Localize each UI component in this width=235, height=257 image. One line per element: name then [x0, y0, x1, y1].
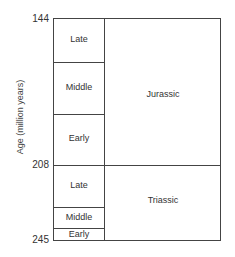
triassic-late-middle-boundary [53, 207, 105, 208]
tick-245: 245 [19, 234, 49, 245]
period-jurassic: Jurassic [105, 89, 221, 99]
tick-208: 208 [19, 159, 49, 170]
epoch-triassic-middle: Middle [54, 212, 104, 222]
tick-144: 144 [19, 13, 49, 24]
y-axis-label: Age (million years) [15, 72, 25, 162]
epoch-jurassic-middle: Middle [54, 82, 104, 92]
epoch-triassic-late: Late [54, 180, 104, 190]
epoch-triassic-early: Early [54, 229, 104, 239]
epoch-jurassic-late: Late [54, 34, 104, 44]
jurassic-late-middle-boundary [53, 62, 105, 63]
jurassic-middle-early-boundary [53, 114, 105, 115]
epoch-jurassic-early: Early [54, 133, 104, 143]
period-triassic: Triassic [105, 195, 221, 205]
jurassic-triassic-boundary [53, 165, 221, 166]
